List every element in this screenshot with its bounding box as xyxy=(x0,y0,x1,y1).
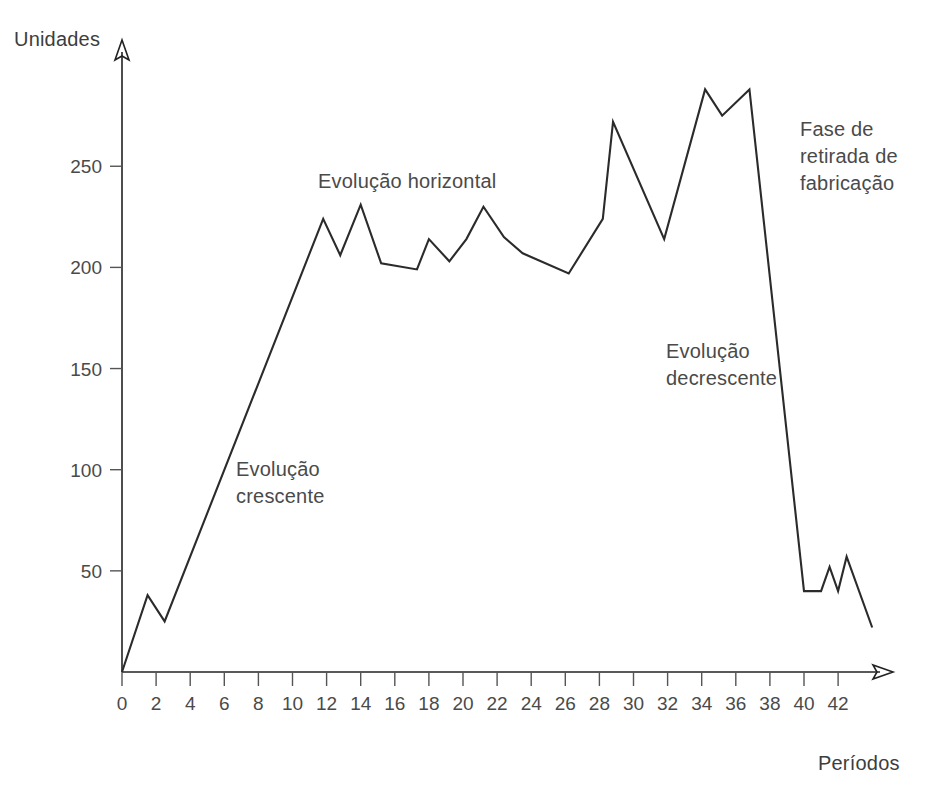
x-tick-label: 18 xyxy=(418,693,439,714)
annotation-evolucao-crescente: Evolução crescente xyxy=(236,456,325,510)
y-tick-label: 100 xyxy=(70,460,102,481)
x-axis-ticks: 024681012141618202224262830323436384042 xyxy=(117,672,849,714)
x-tick-label: 6 xyxy=(219,693,230,714)
x-tick-label: 16 xyxy=(384,693,405,714)
x-tick-label: 40 xyxy=(793,693,814,714)
annotation-evolucao-decrescente: Evolução decrescente xyxy=(666,338,777,392)
x-tick-label: 4 xyxy=(185,693,196,714)
x-tick-label: 36 xyxy=(725,693,746,714)
x-tick-label: 30 xyxy=(623,693,644,714)
x-tick-label: 24 xyxy=(521,693,543,714)
y-axis-title: Unidades xyxy=(14,28,100,51)
x-tick-label: 12 xyxy=(316,693,337,714)
line-chart-plot: 50100150200250 0246810121416182022242628… xyxy=(0,0,937,791)
y-axis-ticks: 50100150200250 xyxy=(70,156,122,582)
x-tick-label: 38 xyxy=(759,693,780,714)
x-axis-title: Períodos xyxy=(818,752,900,775)
x-tick-label: 32 xyxy=(657,693,678,714)
x-tick-label: 0 xyxy=(117,693,128,714)
x-tick-label: 28 xyxy=(589,693,610,714)
annotation-fase-retirada-fabricacao: Fase de retirada de fabricação xyxy=(800,116,898,197)
x-tick-label: 14 xyxy=(350,693,372,714)
annotation-evolucao-horizontal: Evolução horizontal xyxy=(318,168,496,195)
x-tick-label: 22 xyxy=(487,693,508,714)
x-tick-label: 2 xyxy=(151,693,162,714)
x-tick-label: 8 xyxy=(253,693,264,714)
chart-container: 50100150200250 0246810121416182022242628… xyxy=(0,0,937,791)
x-tick-label: 34 xyxy=(691,693,713,714)
x-tick-label: 20 xyxy=(452,693,473,714)
y-tick-label: 250 xyxy=(70,156,102,177)
x-tick-label: 42 xyxy=(828,693,849,714)
y-tick-label: 150 xyxy=(70,359,102,380)
x-tick-label: 10 xyxy=(282,693,303,714)
x-tick-label: 26 xyxy=(555,693,576,714)
y-tick-label: 50 xyxy=(81,561,102,582)
y-tick-label: 200 xyxy=(70,257,102,278)
